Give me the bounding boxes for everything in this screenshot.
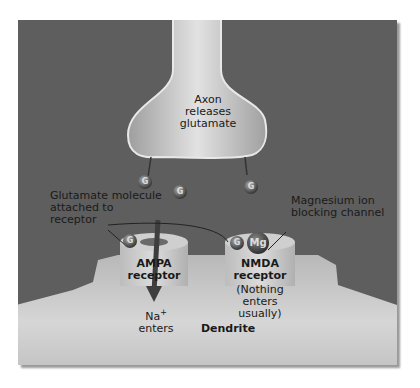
nmda-receptor-label: NMDA receptor: [228, 258, 292, 282]
sodium-label: Na+ enters: [136, 307, 176, 335]
glutamate-molecule: G: [230, 236, 244, 250]
dendrite: [18, 255, 397, 365]
axon-terminal: [128, 20, 266, 158]
nmda-note: (Nothing enters usually): [218, 284, 302, 320]
magnesium-ion: Mg: [247, 232, 269, 254]
dendrite-label: Dendrite: [193, 323, 263, 335]
glutamate-molecule: G: [138, 175, 152, 189]
axon-label: Axon releases glutamate: [173, 94, 243, 130]
glutamate-molecule: G: [244, 180, 258, 194]
glutamate-molecule: G: [173, 185, 187, 199]
magnesium-ion-label: Magnesium ion blocking channel: [291, 195, 397, 219]
glutamate-molecule-label: Glutamate molecule attached to receptor: [50, 190, 170, 226]
ampa-receptor-label: AMPA receptor: [124, 258, 184, 282]
diagram-panel: G G G G G Mg Axon releases glutamate Glu…: [18, 20, 397, 365]
glutamate-molecule: G: [123, 234, 137, 248]
